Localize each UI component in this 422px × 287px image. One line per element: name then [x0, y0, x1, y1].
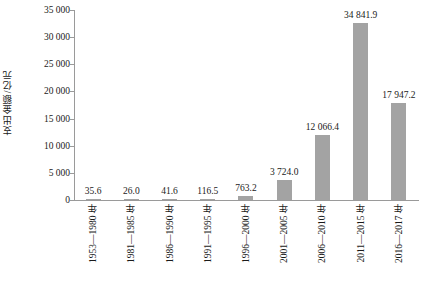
x-category-text: 2016—2017 年: [392, 203, 406, 263]
y-tick-mark: [70, 119, 74, 120]
bar-value-label: 41.6: [161, 186, 178, 197]
y-tick-mark: [70, 10, 74, 11]
bar-column[interactable]: 35.6: [74, 10, 112, 200]
y-tick-label: 0: [14, 195, 70, 205]
y-tick-label: 35 000: [14, 5, 70, 15]
x-category-label: 1981—1985 年: [112, 203, 150, 283]
x-category-label: 1986—1990 年: [150, 203, 188, 283]
x-category-text: 2001—2005 年: [277, 203, 291, 263]
x-category-text: 2011—2015 年: [354, 203, 368, 263]
x-category-text: 1981—1985 年: [124, 203, 138, 263]
y-tick-label: 20 000: [14, 86, 70, 96]
y-tick-mark: [70, 200, 74, 201]
bar-value-label: 116.5: [197, 186, 218, 197]
bar[interactable]: [353, 23, 368, 200]
bar[interactable]: [200, 199, 215, 200]
x-category-text: 1996—2000 年: [239, 203, 253, 263]
bar-column[interactable]: 116.5: [189, 10, 227, 200]
x-axis-line: [74, 200, 419, 201]
bar-column[interactable]: 41.6: [150, 10, 188, 200]
bar-column[interactable]: 34 841.9: [342, 10, 380, 200]
y-tick-label: 30 000: [14, 32, 70, 42]
bar[interactable]: [315, 135, 330, 201]
x-category-label: 2006—2010 年: [303, 203, 341, 283]
y-tick-mark: [70, 37, 74, 38]
bar-column[interactable]: 17 947.2: [380, 10, 418, 200]
bar[interactable]: [86, 199, 101, 200]
bar-column[interactable]: 12 066.4: [303, 10, 341, 200]
bar[interactable]: [391, 103, 406, 200]
x-category-label: 2016—2017 年: [380, 203, 418, 283]
y-tick-label: 5 000: [14, 168, 70, 178]
bar[interactable]: [162, 199, 177, 200]
y-tick-mark: [70, 64, 74, 65]
y-tick-mark: [70, 146, 74, 147]
bar-column[interactable]: 3 724.0: [265, 10, 303, 200]
x-category-label: 2011—2015 年: [342, 203, 380, 283]
bar-column[interactable]: 763.2: [227, 10, 265, 200]
bar-value-label: 17 947.2: [382, 90, 415, 101]
bar-value-label: 35.6: [85, 186, 102, 197]
bar-chart: 支出金额/亿元 05 00010 00015 00020 00025 00030…: [0, 0, 422, 287]
bar[interactable]: [238, 196, 253, 200]
x-axis-category-labels: 1953—1980 年1981—1985 年1986—1990 年1991—19…: [74, 203, 418, 287]
bar[interactable]: [277, 180, 292, 200]
bar-column[interactable]: 26.0: [112, 10, 150, 200]
y-tick-label: 15 000: [14, 114, 70, 124]
bar-value-label: 26.0: [123, 186, 140, 197]
x-category-text: 1986—1990 年: [163, 203, 177, 263]
y-tick-label: 25 000: [14, 59, 70, 69]
y-axis-tick-labels: 05 00010 00015 00020 00025 00030 00035 0…: [14, 0, 70, 287]
y-axis-title-label: 支出金额/亿元: [1, 69, 15, 135]
x-category-label: 1953—1980 年: [74, 203, 112, 283]
bar[interactable]: [124, 199, 139, 200]
x-category-text: 1991—1995 年: [201, 203, 215, 263]
y-tick-label: 10 000: [14, 141, 70, 151]
x-category-label: 1991—1995 年: [189, 203, 227, 283]
bar-value-label: 12 066.4: [306, 122, 339, 133]
y-tick-mark: [70, 173, 74, 174]
bar-value-label: 3 724.0: [270, 167, 299, 178]
x-category-label: 2001—2005 年: [265, 203, 303, 283]
x-category-text: 1953—1980 年: [86, 203, 100, 263]
x-category-label: 1996—2000 年: [227, 203, 265, 283]
plot-area: 35.626.041.6116.5763.23 724.012 066.434 …: [74, 10, 418, 200]
bar-value-label: 34 841.9: [344, 10, 377, 21]
x-category-text: 2006—2010 年: [315, 203, 329, 263]
y-tick-mark: [70, 91, 74, 92]
bar-value-label: 763.2: [235, 183, 256, 194]
